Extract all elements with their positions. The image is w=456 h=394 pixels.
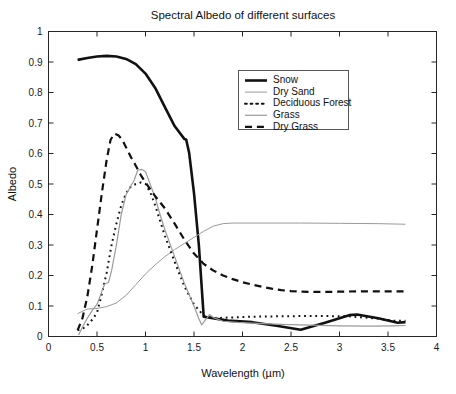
chart-title: Spectral Albedo of different surfaces (151, 9, 336, 21)
y-tick-label: 0.3 (29, 240, 43, 251)
x-tick-label: 1 (143, 342, 149, 353)
chart-legend[interactable]: SnowDry SandDeciduous ForestGrassDry Gra… (239, 71, 352, 132)
legend-label-grass[interactable]: Grass (273, 109, 300, 120)
legend-label-deciduous-forest[interactable]: Deciduous Forest (273, 97, 352, 108)
x-tick-label: 3.5 (381, 342, 395, 353)
y-tick-label: 0.2 (29, 270, 43, 281)
y-tick-label: 0.1 (29, 301, 43, 312)
spectral-albedo-chart: Spectral Albedo of different surfaces 00… (0, 0, 456, 394)
legend-label-dry-sand[interactable]: Dry Sand (273, 86, 315, 97)
figure-container: Spectral Albedo of different surfaces 00… (0, 0, 456, 394)
y-tick-label: 0.4 (29, 209, 43, 220)
y-tick-label: 0.6 (29, 148, 43, 159)
x-tick-label: 2 (240, 342, 246, 353)
y-tick-label: 0.9 (29, 57, 43, 68)
legend-label-dry-grass[interactable]: Dry Grass (273, 121, 318, 132)
x-tick-label: 0 (46, 342, 52, 353)
x-tick-label: 1.5 (187, 342, 201, 353)
y-tick-label: 1 (37, 26, 43, 37)
y-tick-label: 0 (37, 331, 43, 342)
x-tick-label: 0.5 (90, 342, 104, 353)
x-tick-label: 2.5 (284, 342, 298, 353)
x-axis-title: Wavelength (µm) (201, 367, 285, 379)
y-tick-label: 0.7 (29, 118, 43, 129)
y-tick-label: 0.8 (29, 87, 43, 98)
x-tick-label: 4 (434, 342, 440, 353)
y-tick-label: 0.5 (29, 179, 43, 190)
x-tick-label: 3 (337, 342, 343, 353)
y-axis-title: Albedo (6, 167, 18, 201)
legend-label-snow[interactable]: Snow (273, 74, 299, 85)
